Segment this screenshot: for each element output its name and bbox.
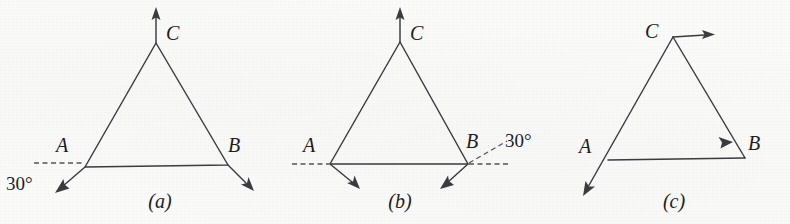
panel-c-edge-cb: [673, 37, 745, 158]
triangle-vector-diagram: A B C 30° (a): [0, 0, 790, 224]
panel-b-vector-b-downleft: [440, 164, 468, 189]
panel-b-angle-label: 30°: [505, 130, 532, 151]
panel-b-vector-a-downright: [330, 164, 360, 189]
panel-a-caption: (a): [148, 190, 172, 213]
panel-c-edge-ca-extended: [588, 37, 673, 187]
panel-a-label-A: A: [54, 134, 69, 156]
panel-b-label-A: A: [301, 134, 316, 156]
panel-a-vector-b-downright: [228, 165, 254, 191]
panel-c-arrowhead-cb: [719, 137, 734, 149]
panel-b: A B C 30° (b): [292, 7, 532, 213]
panel-a: A B C 30° (a): [6, 7, 254, 213]
panel-a-angle-label: 30°: [6, 173, 33, 194]
panel-b-vector-c-up: [396, 7, 405, 42]
panel-a-label-C: C: [166, 22, 180, 44]
panel-a-triangle: [85, 43, 228, 167]
panel-c: A B C (c): [577, 20, 760, 213]
panel-a-label-B: B: [228, 134, 240, 156]
panel-c-label-B: B: [748, 132, 760, 154]
panel-b-triangle: [330, 42, 468, 164]
panel-c-edge-ab: [608, 158, 745, 160]
panel-c-label-C: C: [645, 20, 659, 42]
panel-b-label-C: C: [410, 22, 424, 44]
panel-c-label-A: A: [577, 135, 592, 157]
panel-b-caption: (b): [388, 190, 412, 213]
figure-root: A B C 30° (a): [0, 0, 790, 224]
panel-a-vector-a-downleft: [55, 167, 85, 193]
panel-c-arrowhead-a: [583, 181, 595, 196]
panel-b-label-B: B: [466, 130, 478, 152]
panel-c-caption: (c): [663, 190, 686, 213]
panel-c-vector-c-right: [673, 30, 715, 39]
panel-a-vector-c-up: [152, 7, 161, 43]
